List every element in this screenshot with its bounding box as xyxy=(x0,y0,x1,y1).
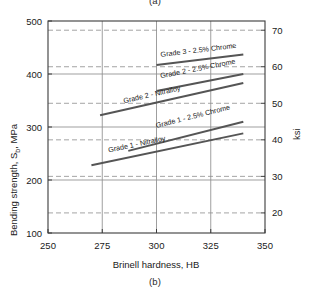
figure-caption-a: (a) xyxy=(0,0,310,6)
y-axis-title-unit: , MPa xyxy=(8,123,19,149)
figure-caption-b: (b) xyxy=(0,276,310,287)
x-tick-label-300: 300 xyxy=(149,240,165,251)
y-tick-label-400: 400 xyxy=(26,69,42,80)
y2-axis-title: ksi xyxy=(291,128,302,140)
y2-tick-label-50: 50 xyxy=(272,98,283,109)
x-axis-ticks-group: 250275300325350 xyxy=(40,229,273,251)
y2-tick-label-60: 60 xyxy=(272,61,283,72)
curve-label-grade-2-nitralloy: Grade 2 - Nitralloy xyxy=(122,83,181,105)
y2-tick-label-70: 70 xyxy=(272,25,283,36)
y-tick-label-100: 100 xyxy=(26,228,42,239)
y-tick-label-200: 200 xyxy=(26,175,42,186)
y-axis-title: Bending strength, Sb, MPa xyxy=(8,123,21,236)
y2-tick-label-30: 30 xyxy=(272,171,283,182)
figure-container: (a) 100200300400500 203040506070 2502753… xyxy=(0,0,310,298)
y-axis-title-main: Bending strength, S xyxy=(8,153,19,236)
x-tick-label-350: 350 xyxy=(257,240,273,251)
y2-tick-label-40: 40 xyxy=(272,134,283,145)
curve-label-grade-1-2-5-chrome: Grade 1 - 2.5% Chrome xyxy=(155,103,231,130)
x-tick-label-325: 325 xyxy=(203,240,219,251)
y-tick-label-300: 300 xyxy=(26,122,42,133)
y2-tick-label-20: 20 xyxy=(272,207,283,218)
x-axis-title: Brinell hardness, HB xyxy=(113,259,200,270)
x-tick-label-250: 250 xyxy=(40,240,56,251)
y-tick-label-500: 500 xyxy=(26,16,42,27)
bending-strength-chart: 100200300400500 203040506070 25027530032… xyxy=(0,0,310,298)
x-tick-label-275: 275 xyxy=(94,240,110,251)
y2-axis-ticks-group: 203040506070 xyxy=(261,25,283,219)
